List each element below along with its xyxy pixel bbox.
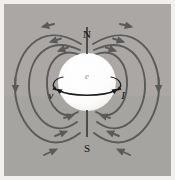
north-pole-label: N (83, 28, 91, 40)
magnetic-field-diagram: N S e v I (0, 0, 175, 180)
figure-container: N S e v I (0, 0, 175, 180)
center-charge-label: e (85, 71, 89, 81)
velocity-label: v (49, 89, 54, 101)
south-pole-label: S (84, 142, 90, 154)
charged-sphere (58, 53, 116, 111)
